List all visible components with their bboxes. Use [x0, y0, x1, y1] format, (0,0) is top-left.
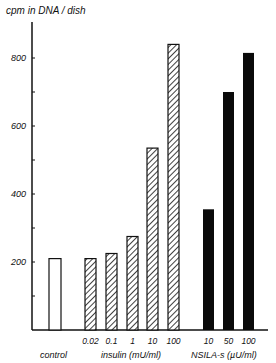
x-label-ns-50: 50	[224, 336, 234, 346]
x-label-ins-0.02: 0.02	[82, 336, 99, 346]
x-label-ins-1: 1	[130, 336, 135, 346]
x-label-ins-0.1: 0.1	[106, 336, 118, 346]
bar-insulin-100	[168, 44, 179, 330]
bar-insulin-10	[147, 148, 158, 330]
x-label-ns-10: 10	[204, 336, 214, 346]
bar-nsila-100	[243, 53, 254, 330]
x-label-ns-100: 100	[241, 336, 255, 346]
bar-insulin-1	[127, 237, 138, 331]
group-label-insulin: insulin (mU/ml)	[101, 350, 161, 360]
bar-nsila-10	[203, 209, 214, 330]
x-label-ins-100: 100	[166, 336, 180, 346]
y-tick-600: 600	[11, 121, 26, 131]
bar-chart: cpm in DNA / dish 200 400 600 800 0.02 0…	[0, 0, 276, 363]
y-axis-label: cpm in DNA / dish	[6, 5, 86, 16]
y-tick-800: 800	[11, 53, 26, 63]
group-label-control: control	[40, 350, 68, 360]
x-label-ins-10: 10	[148, 336, 158, 346]
bar-control	[49, 259, 61, 330]
bar-insulin-0.02	[85, 259, 96, 330]
group-label-nsila: NSILA-s (µU/ml)	[191, 350, 257, 360]
bar-nsila-50	[223, 92, 234, 330]
y-tick-200: 200	[10, 257, 26, 267]
bar-insulin-0.1	[106, 254, 117, 331]
y-tick-400: 400	[11, 189, 26, 199]
